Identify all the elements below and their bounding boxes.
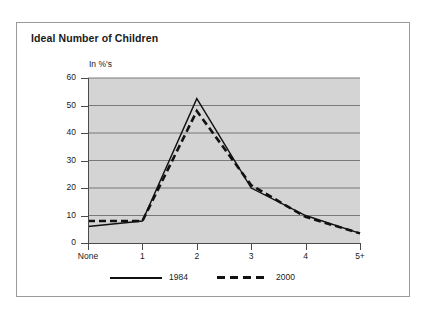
y-tick-label: 30: [52, 155, 76, 165]
y-tick-mark: [81, 216, 88, 217]
x-tick-mark: [360, 244, 361, 250]
legend-swatch-solid: [110, 277, 162, 279]
legend-swatch-dashed: [217, 276, 269, 279]
series-line-1984: [88, 99, 360, 234]
y-axis-line: [88, 78, 89, 244]
y-tick-label: 10: [52, 210, 76, 220]
x-tick-label: 3: [231, 251, 271, 261]
legend-label: 1984: [169, 272, 188, 282]
plot-area: [88, 78, 360, 243]
x-tick-mark: [306, 244, 307, 250]
x-tick-label: 5+: [340, 251, 380, 261]
x-tick-label: 2: [177, 251, 217, 261]
x-tick-label: 1: [122, 251, 162, 261]
y-tick-mark: [81, 78, 88, 79]
y-tick-mark: [81, 243, 88, 244]
y-tick-mark: [81, 188, 88, 189]
y-tick-label: 60: [52, 72, 76, 82]
y-tick-label: 20: [52, 182, 76, 192]
chart-figure: Ideal Number of Children In %'s 01020304…: [0, 0, 427, 314]
data-series-layer: [88, 99, 360, 234]
page-title: Ideal Number of Children: [31, 32, 158, 44]
y-axis-unit-label: In %'s: [89, 59, 112, 69]
x-tick-mark: [88, 244, 89, 250]
y-tick-label: 40: [52, 127, 76, 137]
x-tick-mark: [251, 244, 252, 250]
y-tick-mark: [81, 106, 88, 107]
x-tick-mark: [197, 244, 198, 250]
plot-canvas: [88, 78, 360, 243]
x-tick-mark: [142, 244, 143, 250]
legend-label: 2000: [276, 272, 295, 282]
y-tick-mark: [81, 133, 88, 134]
x-axis-line: [88, 243, 361, 244]
y-tick-label: 50: [52, 100, 76, 110]
x-tick-label: 4: [286, 251, 326, 261]
y-tick-label: 0: [52, 237, 76, 247]
y-tick-mark: [81, 161, 88, 162]
series-line-2000: [88, 111, 360, 233]
x-tick-label: None: [68, 251, 108, 261]
